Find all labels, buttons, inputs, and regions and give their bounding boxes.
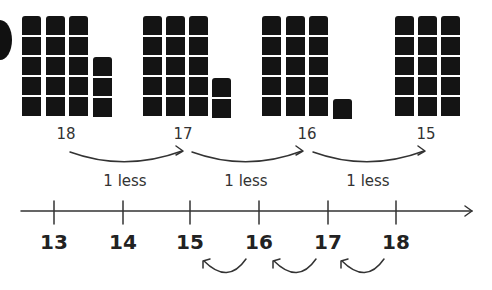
one-less-label: 1 less (103, 172, 146, 190)
number-line-label-16: 16 (245, 230, 273, 254)
number-line-label-18: 18 (382, 230, 410, 254)
top-arrow-17-to-16 (192, 151, 302, 162)
back-arrow-17-to-16 (274, 259, 316, 273)
counting-back-diagram: 18 17 16 15 (0, 0, 492, 290)
one-less-label: 1 less (346, 172, 389, 190)
one-less-label: 1 less (224, 172, 267, 190)
back-arrow-16-to-15 (204, 259, 246, 273)
number-line-label-13: 13 (40, 230, 68, 254)
number-line-label-14: 14 (109, 230, 137, 254)
top-arrow-18-to-17 (70, 151, 182, 162)
back-arrow-18-to-17 (342, 259, 384, 273)
number-line-label-17: 17 (314, 230, 342, 254)
top-arrow-16-to-15 (313, 151, 424, 162)
number-line-label-15: 15 (176, 230, 204, 254)
